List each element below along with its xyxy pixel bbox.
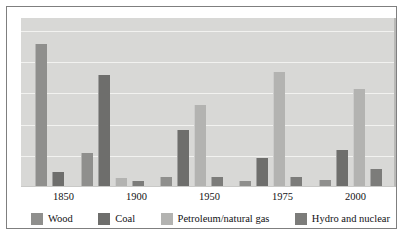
bar-rect[interactable] — [81, 153, 93, 186]
bar-rect[interactable] — [132, 181, 144, 186]
legend-swatch-icon — [31, 213, 43, 225]
bar-group-1975: 3%18%73%6% — [239, 18, 302, 186]
bar-rect[interactable] — [290, 177, 302, 186]
bar-2000-wood[interactable]: 4% — [319, 18, 331, 186]
bar-group-1900: 21%71%5%3% — [81, 18, 144, 186]
legend-label: Coal — [115, 213, 135, 225]
legend-item-wood[interactable]: Wood — [31, 213, 73, 225]
bar-rect[interactable] — [336, 150, 348, 186]
chart-legend: WoodCoalPetroleum/natural gasHydro and n… — [21, 209, 396, 229]
bar-rect[interactable] — [319, 180, 331, 186]
bar-group-2000: 4%23%62%11% — [319, 18, 382, 186]
bar-rect[interactable] — [115, 178, 127, 186]
bar-group-1950: 6%36%52%6% — [160, 18, 223, 186]
bar-2000-coal[interactable]: 23% — [336, 18, 348, 186]
bar-1950-hydro-and-nuclear[interactable]: 6% — [211, 18, 223, 186]
chart-figure: 91%9%21%71%5%3%6%36%52%6%3%18%73%6%4%23%… — [0, 0, 403, 235]
x-tick-1950: 1950 — [199, 189, 220, 205]
bar-1975-hydro-and-nuclear[interactable]: 6% — [290, 18, 302, 186]
bar-groups: 91%9%21%71%5%3%6%36%52%6%3%18%73%6%4%23%… — [21, 18, 394, 186]
bar-group-1850: 91%9% — [35, 18, 64, 186]
legend-swatch-icon — [295, 213, 307, 225]
bar-1900-coal[interactable]: 71% — [98, 18, 110, 186]
bar-1950-wood[interactable]: 6% — [160, 18, 172, 186]
x-tick-2000: 2000 — [345, 189, 366, 205]
bar-rect[interactable] — [211, 177, 223, 186]
x-axis-tick-labels: 18501900195019752000 — [21, 189, 396, 205]
bar-1975-wood[interactable]: 3% — [239, 18, 251, 186]
bar-rect[interactable] — [256, 158, 268, 186]
bar-rect[interactable] — [98, 75, 110, 186]
legend-label: Petroleum/natural gas — [178, 213, 270, 225]
chart-frame: 91%9%21%71%5%3%6%36%52%6%3%18%73%6%4%23%… — [6, 6, 397, 229]
bar-1900-wood[interactable]: 21% — [81, 18, 93, 186]
bar-rect[interactable] — [273, 72, 285, 186]
x-tick-1850: 1850 — [53, 189, 74, 205]
bar-1950-petroleum-natural-gas[interactable]: 52% — [194, 18, 206, 186]
legend-swatch-icon — [161, 213, 173, 225]
bar-1850-coal[interactable]: 9% — [52, 18, 64, 186]
bar-rect[interactable] — [370, 169, 382, 186]
bar-2000-petroleum-natural-gas[interactable]: 62% — [353, 18, 365, 186]
bar-rect[interactable] — [35, 44, 47, 186]
bar-1975-petroleum-natural-gas[interactable]: 73% — [273, 18, 285, 186]
bar-1950-coal[interactable]: 36% — [177, 18, 189, 186]
plot-area: 91%9%21%71%5%3%6%36%52%6%3%18%73%6%4%23%… — [21, 18, 396, 187]
legend-label: Wood — [48, 213, 73, 225]
bar-2000-hydro-and-nuclear[interactable]: 11% — [370, 18, 382, 186]
bar-rect[interactable] — [239, 181, 251, 186]
legend-item-hydro-and-nuclear[interactable]: Hydro and nuclear — [295, 213, 390, 225]
x-tick-1975: 1975 — [272, 189, 293, 205]
bar-1975-coal[interactable]: 18% — [256, 18, 268, 186]
legend-swatch-icon — [98, 213, 110, 225]
bar-rect[interactable] — [194, 105, 206, 186]
legend-item-petroleum-natural-gas[interactable]: Petroleum/natural gas — [161, 213, 270, 225]
bar-1850-wood[interactable]: 91% — [35, 18, 47, 186]
bar-rect[interactable] — [177, 130, 189, 186]
x-tick-1900: 1900 — [126, 189, 147, 205]
bar-rect[interactable] — [160, 177, 172, 186]
legend-item-coal[interactable]: Coal — [98, 213, 135, 225]
bar-1900-petroleum-natural-gas[interactable]: 5% — [115, 18, 127, 186]
bar-rect[interactable] — [353, 89, 365, 186]
bar-rect[interactable] — [52, 172, 64, 186]
bar-1900-hydro-and-nuclear[interactable]: 3% — [132, 18, 144, 186]
legend-label: Hydro and nuclear — [312, 213, 390, 225]
